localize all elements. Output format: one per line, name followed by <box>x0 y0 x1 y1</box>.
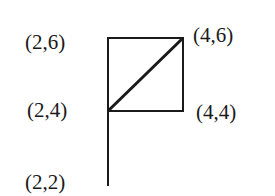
diagonal-segment <box>108 38 183 111</box>
label-2-6: (2,6) <box>25 32 65 53</box>
label-4-4: (4,4) <box>196 102 236 123</box>
label-4-6: (4,6) <box>193 25 233 46</box>
label-2-2: (2,2) <box>25 172 65 193</box>
label-2-4: (2,4) <box>27 100 67 121</box>
